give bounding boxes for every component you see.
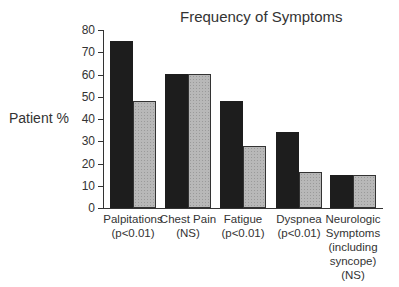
y-tick [98,186,103,187]
y-axis [103,30,104,208]
y-tick-label: 0 [70,202,95,214]
y-tick-label: 60 [70,69,95,81]
bar [220,101,243,208]
y-tick [98,75,103,76]
y-tick-label: 80 [70,24,95,36]
y-tick-label: 50 [70,91,95,103]
bar [299,172,322,208]
y-tick [98,97,103,98]
chart-title: Frequency of Symptoms [180,8,343,25]
y-tick [98,52,103,53]
x-tick-label: NeurologicSymptoms(includingsyncope)(NS) [318,212,388,282]
y-tick [98,119,103,120]
y-tick [98,141,103,142]
bar [133,101,156,208]
y-tick [98,30,103,31]
bar [165,74,188,208]
y-tick-label: 10 [70,180,95,192]
y-tick-label: 20 [70,158,95,170]
bar [330,175,353,208]
x-axis [103,208,383,209]
y-tick [98,164,103,165]
y-tick-label: 40 [70,113,95,125]
bar [243,146,266,208]
bar [276,132,299,208]
bar [110,41,133,208]
bar [353,175,376,208]
bar [188,74,211,208]
y-tick [98,208,103,209]
y-axis-label: Patient % [9,110,69,126]
y-tick-label: 30 [70,135,95,147]
y-tick-label: 70 [70,46,95,58]
